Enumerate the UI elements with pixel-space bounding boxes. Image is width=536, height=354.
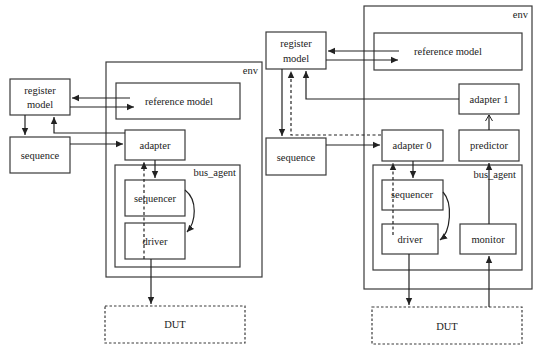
dut-block: DUT bbox=[372, 307, 522, 344]
register-model-block: register model bbox=[266, 32, 326, 69]
sequence-block: sequence bbox=[266, 138, 326, 175]
register-model-label-line1: register bbox=[24, 85, 56, 96]
dashed-arrow-adapter0-to-regmodel bbox=[291, 71, 381, 135]
register-model-label-line2: model bbox=[283, 53, 309, 64]
register-model-label-line2: model bbox=[27, 99, 53, 110]
driver-label: driver bbox=[142, 236, 168, 247]
diagram-left: env register model reference model seque… bbox=[10, 62, 262, 343]
adapter-label: adapter bbox=[140, 140, 171, 151]
register-model-block: register model bbox=[10, 79, 70, 115]
sequencer-label: sequencer bbox=[134, 193, 176, 204]
sequencer-block: sequencer bbox=[382, 180, 443, 210]
bus-agent-label: bus_agent bbox=[473, 169, 516, 180]
predictor-block: predictor bbox=[459, 130, 519, 161]
monitor-label: monitor bbox=[471, 234, 505, 245]
reference-model-label: reference model bbox=[145, 96, 213, 107]
sequence-block: sequence bbox=[10, 137, 70, 173]
bus-agent-label: bus_agent bbox=[193, 167, 236, 178]
dut-label: DUT bbox=[436, 321, 458, 332]
reference-model-label: reference model bbox=[414, 46, 482, 57]
sequence-label: sequence bbox=[21, 150, 60, 161]
sequencer-label: sequencer bbox=[391, 189, 433, 200]
adapter0-block: adapter 0 bbox=[382, 130, 443, 161]
predictor-label: predictor bbox=[470, 140, 508, 151]
reference-model-block: reference model bbox=[116, 83, 240, 119]
adapter1-label: adapter 1 bbox=[470, 94, 509, 105]
sequencer-block: sequencer bbox=[125, 180, 185, 216]
driver-block: driver bbox=[125, 223, 185, 259]
arrow-adapter-to-regmodel bbox=[54, 117, 125, 133]
env-label: env bbox=[243, 65, 259, 76]
monitor-block: monitor bbox=[460, 224, 516, 254]
sequence-label: sequence bbox=[277, 152, 316, 163]
dut-block: DUT bbox=[105, 306, 245, 343]
env-label: env bbox=[513, 9, 529, 20]
diagram-right: env register model reference model adapt… bbox=[266, 6, 532, 344]
adapter0-label: adapter 0 bbox=[393, 140, 432, 151]
register-model-label-line1: register bbox=[280, 38, 312, 49]
driver-block: driver bbox=[382, 224, 438, 254]
register-model-diagrams: env register model reference model seque… bbox=[0, 0, 536, 354]
arrow-adapter1-to-regmodel bbox=[306, 71, 459, 99]
adapter-block: adapter bbox=[125, 130, 185, 160]
dut-label: DUT bbox=[164, 319, 186, 330]
adapter1-block: adapter 1 bbox=[459, 84, 519, 114]
driver-label: driver bbox=[397, 234, 423, 245]
arrow-sequencer-to-driver bbox=[185, 190, 194, 232]
